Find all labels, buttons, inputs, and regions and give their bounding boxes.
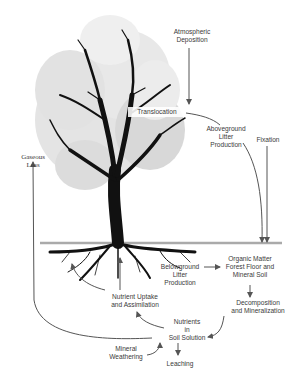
arrow-translocation (186, 113, 220, 125)
tree-canopy (35, 15, 185, 190)
label-organic-matter: Organic Matter Forest Floor and Mineral … (219, 255, 281, 279)
arrow-aboveground-litter (243, 143, 262, 242)
label-decomposition: Decomposition and Mineralization (222, 299, 294, 315)
arrow-uptake-to-roots-left (72, 264, 105, 290)
label-nutrient-uptake: Nutrient Uptake and Assimilation (104, 293, 166, 309)
label-nutrients-soil: Nutrients in Soil Solution (160, 318, 214, 342)
label-translocation: Translocation (128, 107, 186, 117)
label-gaseous-loss: Gaseous Loss (16, 153, 50, 169)
label-mineral-weathering: Mineral Weathering (106, 345, 146, 361)
label-belowground-litter: Belowground Litter Production (156, 263, 204, 287)
label-atmospheric-deposition: Atmospheric Deposition (164, 28, 220, 44)
nutrient-cycle-diagram: Atmospheric Deposition Translocation Abo… (0, 0, 294, 384)
label-fixation: Fixation (252, 136, 284, 144)
diagram-graphics (0, 0, 294, 384)
label-aboveground-litter: Aboveground Litter Production (196, 125, 256, 149)
arrow-mineral-weathering (147, 343, 160, 355)
label-leaching: Leaching (160, 360, 200, 368)
